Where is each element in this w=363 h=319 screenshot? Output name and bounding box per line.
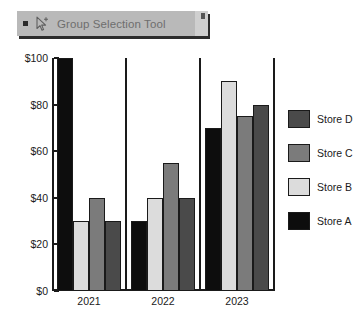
group-selection-tooltip: Group Selection Tool [17,11,208,36]
y-axis-label: $40 [30,192,48,204]
bar[interactable] [179,198,195,291]
bar[interactable] [57,58,73,291]
tooltip-resize-notch-icon [201,13,205,19]
legend-item[interactable]: Store A [288,210,363,232]
bar[interactable] [147,198,163,291]
bar[interactable] [73,221,89,291]
legend-item[interactable]: Store D [288,108,363,130]
legend-item[interactable]: Store B [288,176,363,198]
legend-swatch [288,178,310,196]
legend-swatch [288,212,310,230]
square-bullet-icon [23,21,28,26]
y-axis [52,58,54,291]
bar[interactable] [253,105,269,291]
legend-label: Store C [317,147,353,159]
group-divider [273,58,275,291]
y-axis-label: $100 [25,52,48,64]
bar[interactable] [205,128,221,291]
chart-legend: Store DStore CStore BStore A [288,108,363,244]
x-axis-category-label: 2021 [77,295,100,307]
legend-label: Store D [317,113,353,125]
y-axis-label: $20 [30,238,48,250]
group-divider [125,58,127,291]
plot-area: 202120222023 [52,58,274,291]
tooltip-label: Group Selection Tool [57,18,166,30]
y-axis-label: $0 [36,285,48,297]
group-divider [199,58,201,291]
tooltip-right-pane [195,11,208,36]
y-axis-label: $60 [30,145,48,157]
legend-label: Store A [317,215,351,227]
bar[interactable] [163,163,179,291]
bar[interactable] [221,81,237,291]
x-axis-category-label: 2023 [225,295,248,307]
legend-swatch [288,110,310,128]
bar-chart: 202120222023 $0$20$40$60$80$100 Store DS… [0,48,363,319]
bar[interactable] [89,198,105,291]
bar[interactable] [237,116,253,291]
legend-item[interactable]: Store C [288,142,363,164]
bar[interactable] [105,221,121,291]
x-axis-category-label: 2022 [151,295,174,307]
legend-swatch [288,144,310,162]
y-axis-label: $80 [30,99,48,111]
group-selection-cursor-icon [35,16,50,32]
legend-label: Store B [317,181,352,193]
bar[interactable] [131,221,147,291]
